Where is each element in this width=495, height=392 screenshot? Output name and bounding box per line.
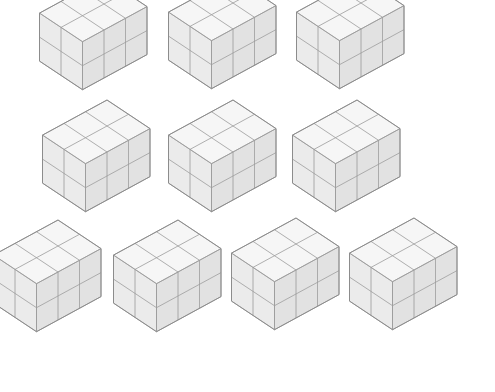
cube-blocks-figure [0,0,495,392]
cube-block [297,0,405,89]
cube-block [0,220,101,332]
cube-block [232,218,340,330]
cube-block [43,100,151,212]
cube-block [114,220,222,332]
cube-block [293,100,401,212]
cube-block [350,218,458,330]
cube-block [169,100,277,212]
cube-block [169,0,277,89]
cube-block [40,0,148,90]
